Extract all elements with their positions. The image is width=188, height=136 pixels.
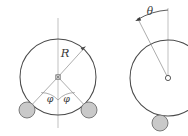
right-ball (81, 102, 97, 118)
right-center-marker (165, 75, 170, 80)
radius-label: R (60, 46, 70, 60)
right-panel: θ (130, 5, 188, 131)
phi-left-label: φ (47, 93, 54, 104)
figure-container: R φ φ θ (0, 0, 188, 136)
single-ball (152, 115, 168, 131)
phi-right-label: φ (63, 93, 70, 104)
physics-diagram: R φ φ θ (0, 0, 188, 136)
left-panel: R φ φ (19, 18, 97, 128)
left-center-dot (57, 76, 59, 78)
right-main-circle (130, 40, 188, 116)
left-ball (19, 102, 35, 118)
right-tilt-spoke (138, 18, 169, 78)
theta-label: θ (147, 5, 154, 17)
